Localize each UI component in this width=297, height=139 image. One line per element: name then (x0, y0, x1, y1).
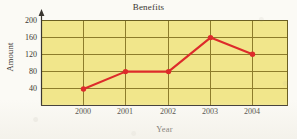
plot-background (42, 21, 288, 106)
data-point-2003 (208, 35, 213, 40)
benefits-line-chart-figure: Benefits Amount Year 200 160 120 80 40 2… (0, 0, 297, 139)
data-point-2004 (250, 52, 255, 57)
up-arrow-icon (39, 9, 45, 16)
data-point-2002 (166, 69, 171, 74)
plot-area (0, 0, 297, 139)
data-point-2001 (123, 69, 128, 74)
data-point-2000 (81, 86, 86, 91)
